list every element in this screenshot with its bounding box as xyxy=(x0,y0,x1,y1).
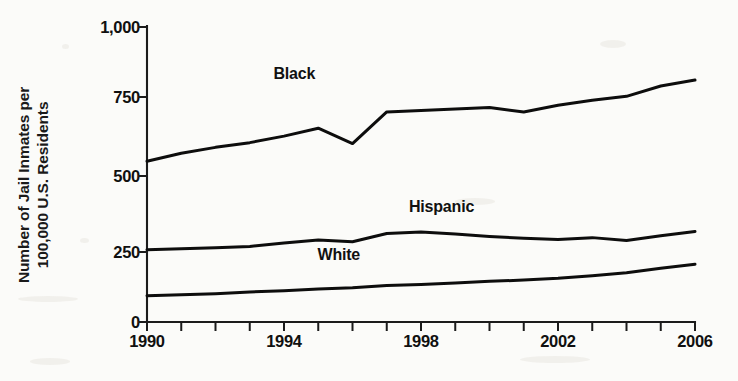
series-label-black: Black xyxy=(273,65,315,83)
x-tick-label-1990: 1990 xyxy=(129,332,165,351)
x-tick-label-1994: 1994 xyxy=(266,332,302,351)
series-label-hispanic: Hispanic xyxy=(409,198,474,216)
series-label-white: White xyxy=(318,246,361,264)
plot-area xyxy=(0,0,738,381)
x-tick-label-1998: 1998 xyxy=(403,332,439,351)
series-line-black xyxy=(147,80,695,161)
data-series-group xyxy=(147,80,695,296)
jail-inmate-rate-chart: Number of Jail Inmates per 100,000 U.S. … xyxy=(0,0,738,381)
series-line-white xyxy=(147,264,695,296)
x-tick-label-2006: 2006 xyxy=(677,332,713,351)
x-axis xyxy=(147,322,695,331)
x-tick-marks xyxy=(147,322,695,331)
y-axis xyxy=(138,26,147,322)
x-tick-label-2002: 2002 xyxy=(540,332,576,351)
series-line-hispanic xyxy=(147,231,695,249)
